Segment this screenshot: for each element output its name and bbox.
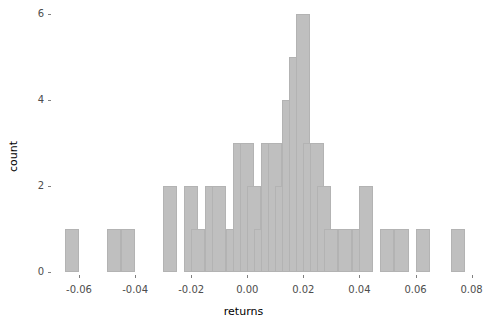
histogram-bar — [163, 186, 177, 272]
x-axis-title: returns — [0, 305, 487, 318]
x-tick-mark — [416, 275, 417, 278]
x-tick-label: 0.08 — [450, 284, 487, 295]
y-tick-label: 4 — [0, 94, 44, 105]
histogram-bar — [451, 229, 465, 272]
x-tick-label: 0.06 — [394, 284, 438, 295]
x-tick-mark — [359, 275, 360, 278]
y-tick-mark — [48, 272, 51, 273]
y-axis-title: count — [7, 127, 20, 187]
histogram-bar — [359, 186, 373, 272]
x-tick-mark — [472, 275, 473, 278]
x-tick-mark — [303, 275, 304, 278]
y-tick-mark — [48, 14, 51, 15]
histogram-bar — [121, 229, 135, 272]
x-tick-label: -0.04 — [113, 284, 157, 295]
y-tick-label: 6 — [0, 8, 44, 19]
x-tick-mark — [79, 275, 80, 278]
x-tick-label: 0.00 — [225, 284, 269, 295]
histogram-bar — [394, 229, 408, 272]
plot-area — [58, 14, 473, 272]
histogram-bar — [65, 229, 79, 272]
x-tick-mark — [135, 275, 136, 278]
histogram-bar — [416, 229, 430, 272]
histogram-bar — [107, 229, 121, 272]
histogram-bar — [324, 229, 338, 272]
y-tick-mark — [48, 100, 51, 101]
x-tick-label: -0.02 — [169, 284, 213, 295]
histogram-chart: 0246 -0.06-0.04-0.020.000.020.040.060.08… — [0, 0, 487, 331]
histogram-bar — [380, 229, 394, 272]
x-tick-mark — [191, 275, 192, 278]
x-tick-label: 0.04 — [337, 284, 381, 295]
histogram-bar — [212, 186, 226, 272]
x-tick-label: -0.06 — [57, 284, 101, 295]
x-tick-label: 0.02 — [281, 284, 325, 295]
y-tick-label: 0 — [0, 266, 44, 277]
histogram-bar — [191, 229, 205, 272]
x-tick-mark — [247, 275, 248, 278]
y-tick-mark — [48, 186, 51, 187]
histogram-bar — [338, 229, 352, 272]
